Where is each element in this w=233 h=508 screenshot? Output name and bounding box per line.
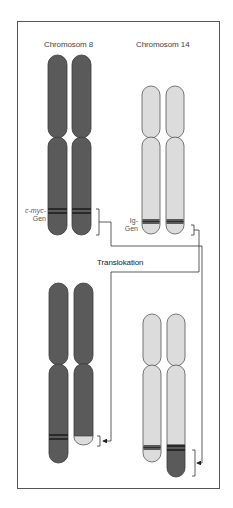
chr8-after-pair <box>49 283 93 463</box>
chr14-after-b <box>167 314 185 477</box>
chr8-before-a <box>48 55 67 235</box>
chr14-after-pair <box>143 314 185 477</box>
cmyc-bracket <box>96 209 99 235</box>
chr8-before-b <box>72 55 91 235</box>
chr8-after-a <box>49 283 68 463</box>
chr14-after-bracket <box>192 450 195 476</box>
chr14-after-a <box>143 314 161 462</box>
chr14-before-a <box>142 86 160 234</box>
ig-bracket <box>191 225 194 235</box>
chr14-before-b <box>166 86 184 234</box>
chromosome-diagram <box>0 0 233 508</box>
chr8-after-bracket <box>97 436 100 446</box>
chr8-before-pair <box>48 55 91 235</box>
chr14-before-pair <box>142 86 184 234</box>
chr8-after-b <box>74 283 93 445</box>
